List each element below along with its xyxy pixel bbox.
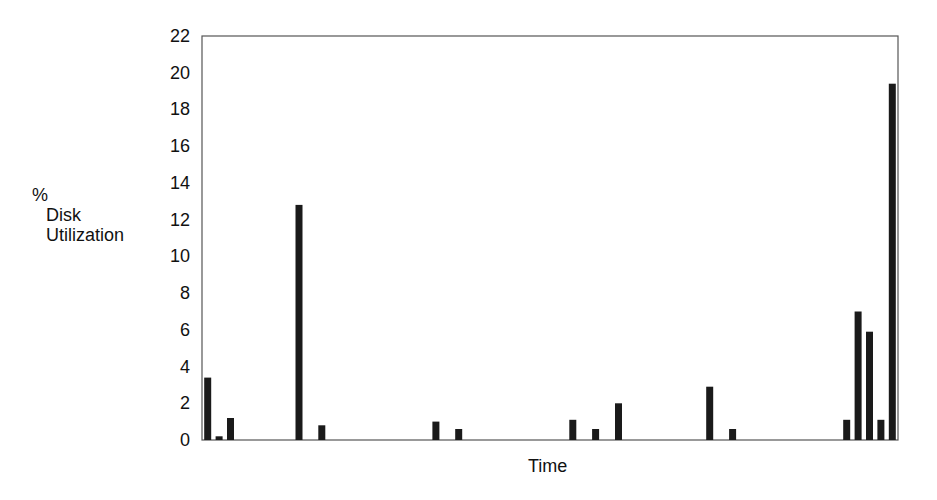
y-tick-label: 18 — [170, 99, 190, 119]
y-tick-label: 16 — [170, 136, 190, 156]
bar — [592, 429, 599, 440]
bars — [204, 84, 896, 440]
y-tick-label: 6 — [180, 320, 190, 340]
y-tick-label: 20 — [170, 63, 190, 83]
bar — [843, 420, 850, 440]
y-tick-label: 14 — [170, 173, 190, 193]
bar — [216, 436, 223, 440]
y-tick-label: 2 — [180, 393, 190, 413]
bar — [729, 429, 736, 440]
bar — [866, 332, 873, 440]
bar — [706, 387, 713, 440]
bar — [569, 420, 576, 440]
bar — [455, 429, 462, 440]
y-axis-label-line-3: Utilization — [32, 225, 124, 245]
bar — [855, 312, 862, 441]
y-axis-ticks: 0246810121416182022 — [170, 26, 190, 450]
x-axis-label: Time — [528, 456, 567, 477]
y-tick-label: 0 — [180, 430, 190, 450]
y-tick-label: 12 — [170, 210, 190, 230]
bar — [318, 425, 325, 440]
bar — [889, 84, 896, 440]
bar — [615, 403, 622, 440]
y-axis-label-line-1: % — [32, 185, 124, 205]
y-axis-label: % Disk Utilization — [32, 185, 124, 245]
y-tick-label: 4 — [180, 357, 190, 377]
y-tick-label: 8 — [180, 283, 190, 303]
plot-frame — [202, 36, 898, 440]
y-tick-label: 10 — [170, 246, 190, 266]
bar — [877, 420, 884, 440]
disk-utilization-chart: 0246810121416182022 — [0, 0, 937, 500]
y-tick-label: 22 — [170, 26, 190, 46]
y-axis-label-line-2: Disk — [32, 205, 124, 225]
bar — [204, 378, 211, 440]
bar — [432, 422, 439, 440]
bar — [227, 418, 234, 440]
bar — [296, 205, 303, 440]
